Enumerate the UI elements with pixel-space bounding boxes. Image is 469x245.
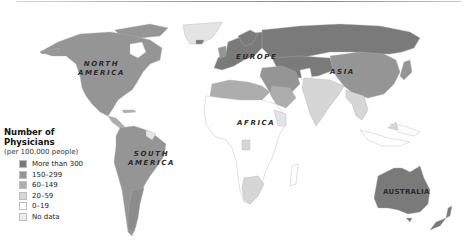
legend-item: 60–149 (4, 180, 119, 191)
region-new-zealand (430, 206, 452, 230)
legend-swatch (19, 171, 27, 179)
legend-item: 150–299 (4, 170, 119, 181)
region-south-america (114, 126, 166, 236)
legend-item: 20–59 (4, 191, 119, 202)
region-madagascar (290, 164, 298, 186)
legend-item: 0–19 (4, 201, 119, 212)
legend-swatch (19, 192, 27, 200)
legend-title: Number of Physicians (4, 127, 119, 147)
label-asia: ASIA (330, 68, 355, 77)
legend-swatch (19, 202, 27, 210)
label-europe: EUROPE (236, 53, 277, 62)
region-north-africa (210, 80, 270, 100)
label-australia: AUSTRALIA (383, 188, 430, 197)
region-south-asia (302, 78, 344, 126)
legend-item: No data (4, 212, 119, 223)
label-north-america: NORTH AMERICA (78, 60, 125, 78)
legend-subtitle: (per 100,000 people) (4, 148, 119, 156)
label-africa: AFRICA (237, 119, 275, 128)
legend-swatch (19, 160, 27, 168)
legend-swatch (19, 181, 27, 189)
legend-item: More than 300 (4, 159, 119, 170)
legend-swatch (19, 213, 27, 221)
legend: Number of Physicians (per 100,000 people… (4, 127, 119, 222)
label-south-america: SOUTH AMERICA (128, 150, 175, 168)
